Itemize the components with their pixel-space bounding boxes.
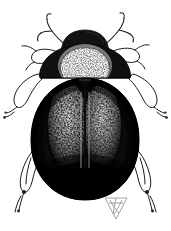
beetle-illustration bbox=[0, 0, 171, 231]
illustration-plate bbox=[0, 0, 171, 231]
